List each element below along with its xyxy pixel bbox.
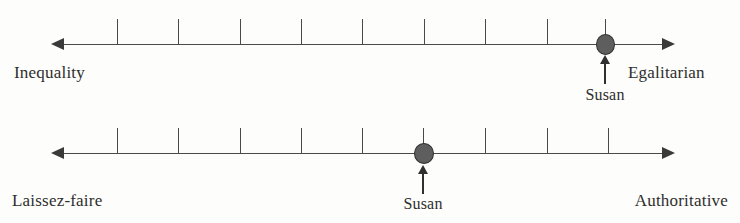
axis-line-authority bbox=[62, 153, 668, 154]
marker-pointer-shaft bbox=[422, 172, 424, 194]
tick-mark bbox=[117, 19, 118, 44]
figure-canvas: Inequality Egalitarian Susan Laissez-fai… bbox=[0, 0, 740, 223]
scale-right-label-economic: Egalitarian bbox=[628, 64, 705, 81]
respondent-marker bbox=[414, 143, 434, 164]
tick-mark bbox=[117, 128, 118, 153]
tick-mark bbox=[178, 128, 179, 153]
marker-caption-economic: Susan bbox=[585, 87, 624, 103]
marker-pointer-head-icon bbox=[418, 165, 428, 174]
tick-mark bbox=[178, 19, 179, 44]
axis-arrow-right-icon bbox=[662, 38, 675, 50]
tick-mark bbox=[240, 128, 241, 153]
tick-mark bbox=[608, 128, 609, 153]
tick-mark bbox=[485, 19, 486, 44]
axis-line-economic bbox=[62, 44, 668, 45]
marker-pointer-head-icon bbox=[600, 55, 610, 64]
tick-mark bbox=[424, 19, 425, 44]
tick-mark bbox=[485, 128, 486, 153]
scale-right-label-authority: Authoritative bbox=[635, 192, 728, 209]
tick-mark bbox=[301, 128, 302, 153]
tick-mark bbox=[362, 19, 363, 44]
tick-mark bbox=[547, 19, 548, 44]
scale-left-label-authority: Laissez-faire bbox=[12, 192, 102, 209]
tick-mark bbox=[362, 128, 363, 153]
respondent-marker bbox=[596, 34, 615, 55]
marker-caption-authority: Susan bbox=[403, 196, 442, 212]
scale-left-label-economic: Inequality bbox=[14, 64, 85, 81]
tick-mark bbox=[547, 128, 548, 153]
axis-arrow-left-icon bbox=[51, 38, 64, 50]
axis-arrow-left-icon bbox=[51, 147, 64, 159]
axis-arrow-right-icon bbox=[662, 147, 675, 159]
tick-mark bbox=[301, 19, 302, 44]
tick-mark bbox=[240, 19, 241, 44]
marker-pointer-shaft bbox=[604, 62, 606, 84]
